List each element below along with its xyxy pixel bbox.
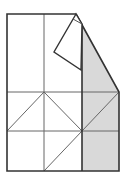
folded-flap — [54, 14, 82, 70]
origami-diagram — [0, 0, 127, 177]
